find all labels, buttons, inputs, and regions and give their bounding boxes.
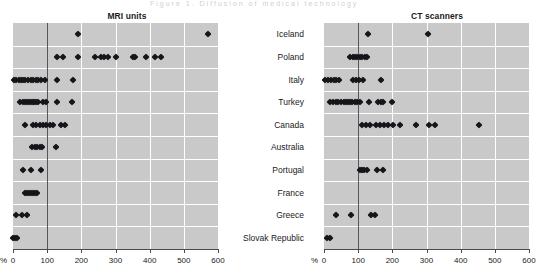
- data-point: [372, 212, 379, 219]
- x-axis-tick: [324, 249, 325, 253]
- data-point: [335, 76, 342, 83]
- data-point: [366, 99, 373, 106]
- data-point: [50, 121, 57, 128]
- reference-line-100: [47, 23, 48, 249]
- gridline: [495, 23, 496, 249]
- data-point: [432, 121, 439, 128]
- category-axis-labels: IcelandPolandItalyTurkeyCanadaAustraliaP…: [226, 23, 312, 249]
- x-axis-tick-label: 600: [211, 256, 224, 265]
- data-point: [157, 53, 164, 60]
- data-point: [104, 53, 111, 60]
- x-axis-tick: [427, 249, 428, 253]
- x-axis-tick-label: 400: [143, 256, 156, 265]
- data-point: [27, 166, 34, 173]
- data-point: [377, 76, 384, 83]
- data-point: [54, 99, 61, 106]
- category-label-turkey: Turkey: [278, 97, 304, 107]
- data-point: [348, 212, 355, 219]
- x-axis-tick: [150, 249, 151, 253]
- data-point: [37, 166, 44, 173]
- x-axis-tick-label: 300: [420, 256, 433, 265]
- figure-root: Figure 1. Diffusion of medical technolog…: [0, 0, 538, 274]
- gridline: [392, 23, 393, 249]
- chart-panel-ct: CT scanners % 0100200300400500600: [312, 0, 538, 274]
- x-axis-tick-label: 500: [488, 256, 501, 265]
- data-point: [359, 76, 366, 83]
- x-axis-tick-label: 500: [177, 256, 190, 265]
- gridline: [184, 23, 185, 249]
- x-axis-tick: [495, 249, 496, 253]
- x-axis-tick: [461, 249, 462, 253]
- data-point: [380, 166, 387, 173]
- data-point: [112, 53, 119, 60]
- x-axis-tick: [47, 249, 48, 253]
- x-axis-tick-label: 200: [75, 256, 88, 265]
- gridline: [461, 23, 462, 249]
- data-point: [333, 212, 340, 219]
- x-axis-tick: [116, 249, 117, 253]
- data-point: [389, 99, 396, 106]
- x-axis-tick-label: 300: [109, 256, 122, 265]
- x-axis-tick: [218, 249, 219, 253]
- plot-area-ct: [324, 23, 529, 249]
- x-axis-tick-label: 100: [351, 256, 364, 265]
- data-point: [70, 76, 77, 83]
- x-axis-tick: [13, 249, 14, 253]
- data-point: [19, 166, 26, 173]
- data-point: [132, 53, 139, 60]
- category-label-poland: Poland: [278, 52, 304, 62]
- x-axis-tick-label: 200: [386, 256, 399, 265]
- x-axis-tick: [184, 249, 185, 253]
- data-point: [54, 76, 61, 83]
- x-axis-percent-symbol-mri: %: [0, 256, 7, 265]
- x-axis-tick: [81, 249, 82, 253]
- category-label-canada: Canada: [274, 120, 304, 130]
- category-label-australia: Australia: [271, 142, 304, 152]
- data-point: [476, 121, 483, 128]
- category-label-iceland: Iceland: [277, 29, 304, 39]
- data-point: [23, 212, 30, 219]
- chart-title-mri: MRI units: [0, 11, 240, 21]
- data-point: [396, 121, 403, 128]
- category-label-portugal: Portugal: [272, 165, 304, 175]
- plot-area-mri: [13, 23, 218, 249]
- data-point: [53, 144, 60, 151]
- category-label-italy: Italy: [288, 75, 304, 85]
- data-point: [204, 31, 211, 38]
- x-axis-tick-label: 600: [522, 256, 535, 265]
- category-label-greece: Greece: [276, 210, 304, 220]
- data-point: [61, 121, 68, 128]
- x-axis-tick-label: 0: [322, 256, 326, 265]
- data-point: [365, 31, 372, 38]
- x-axis-tick: [392, 249, 393, 253]
- x-axis-tick: [529, 249, 530, 253]
- x-axis-tick-label: 100: [40, 256, 53, 265]
- data-point: [68, 99, 75, 106]
- data-point: [413, 121, 420, 128]
- data-point: [21, 121, 28, 128]
- x-axis-tick: [358, 249, 359, 253]
- x-axis-percent-symbol-ct: %: [311, 256, 318, 265]
- data-point: [59, 53, 66, 60]
- category-label-slovak-republic: Slovak Republic: [243, 233, 304, 243]
- category-label-france: France: [278, 188, 304, 198]
- data-point: [327, 234, 334, 241]
- chart-panel-mri: MRI units % 0100200300400500600: [0, 0, 226, 274]
- gridline: [427, 23, 428, 249]
- x-axis-tick-label: 0: [11, 256, 15, 265]
- chart-title-ct: CT scanners: [312, 11, 538, 21]
- x-axis-tick-label: 400: [454, 256, 467, 265]
